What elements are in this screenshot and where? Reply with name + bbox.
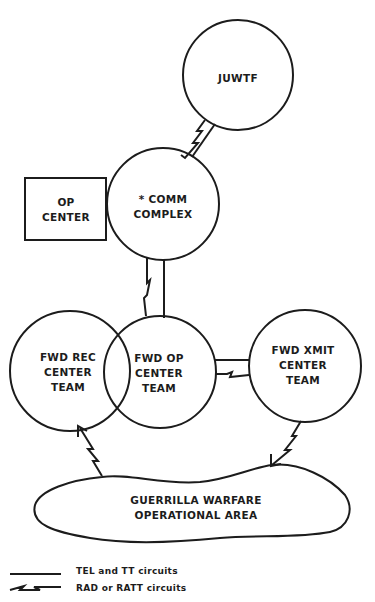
op-center-label: OP CENTER [42,195,90,225]
fwd-rec-label: FWD REC CENTER TEAM [40,350,96,395]
link-fwdop-fwdxmit [215,360,249,377]
comm-complex-label: * COMM COMPLEX [134,192,193,222]
legend-solid: TEL and TT circuits [8,565,178,577]
juwtf-label: JUWTF [218,71,258,86]
link-guerrilla-fwdrec [78,426,102,476]
guerrilla-area-label: GUERRILLA WARFARE OPERATIONAL AREA [130,493,261,523]
legend-zigzag: RAD or RATT circuits [8,582,186,594]
link-comm-fwdop [144,258,164,318]
fwd-xmit-label: FWD XMIT CENTER TEAM [271,343,334,388]
fwd-op-label: FWD OP CENTER TEAM [134,351,184,396]
solid-line-icon [8,565,63,577]
zigzag-line-icon [8,582,63,594]
link-fwdxmit-guerrilla [271,421,301,466]
legend-solid-text: TEL and TT circuits [76,566,178,576]
legend-zigzag-text: RAD or RATT circuits [76,583,186,593]
